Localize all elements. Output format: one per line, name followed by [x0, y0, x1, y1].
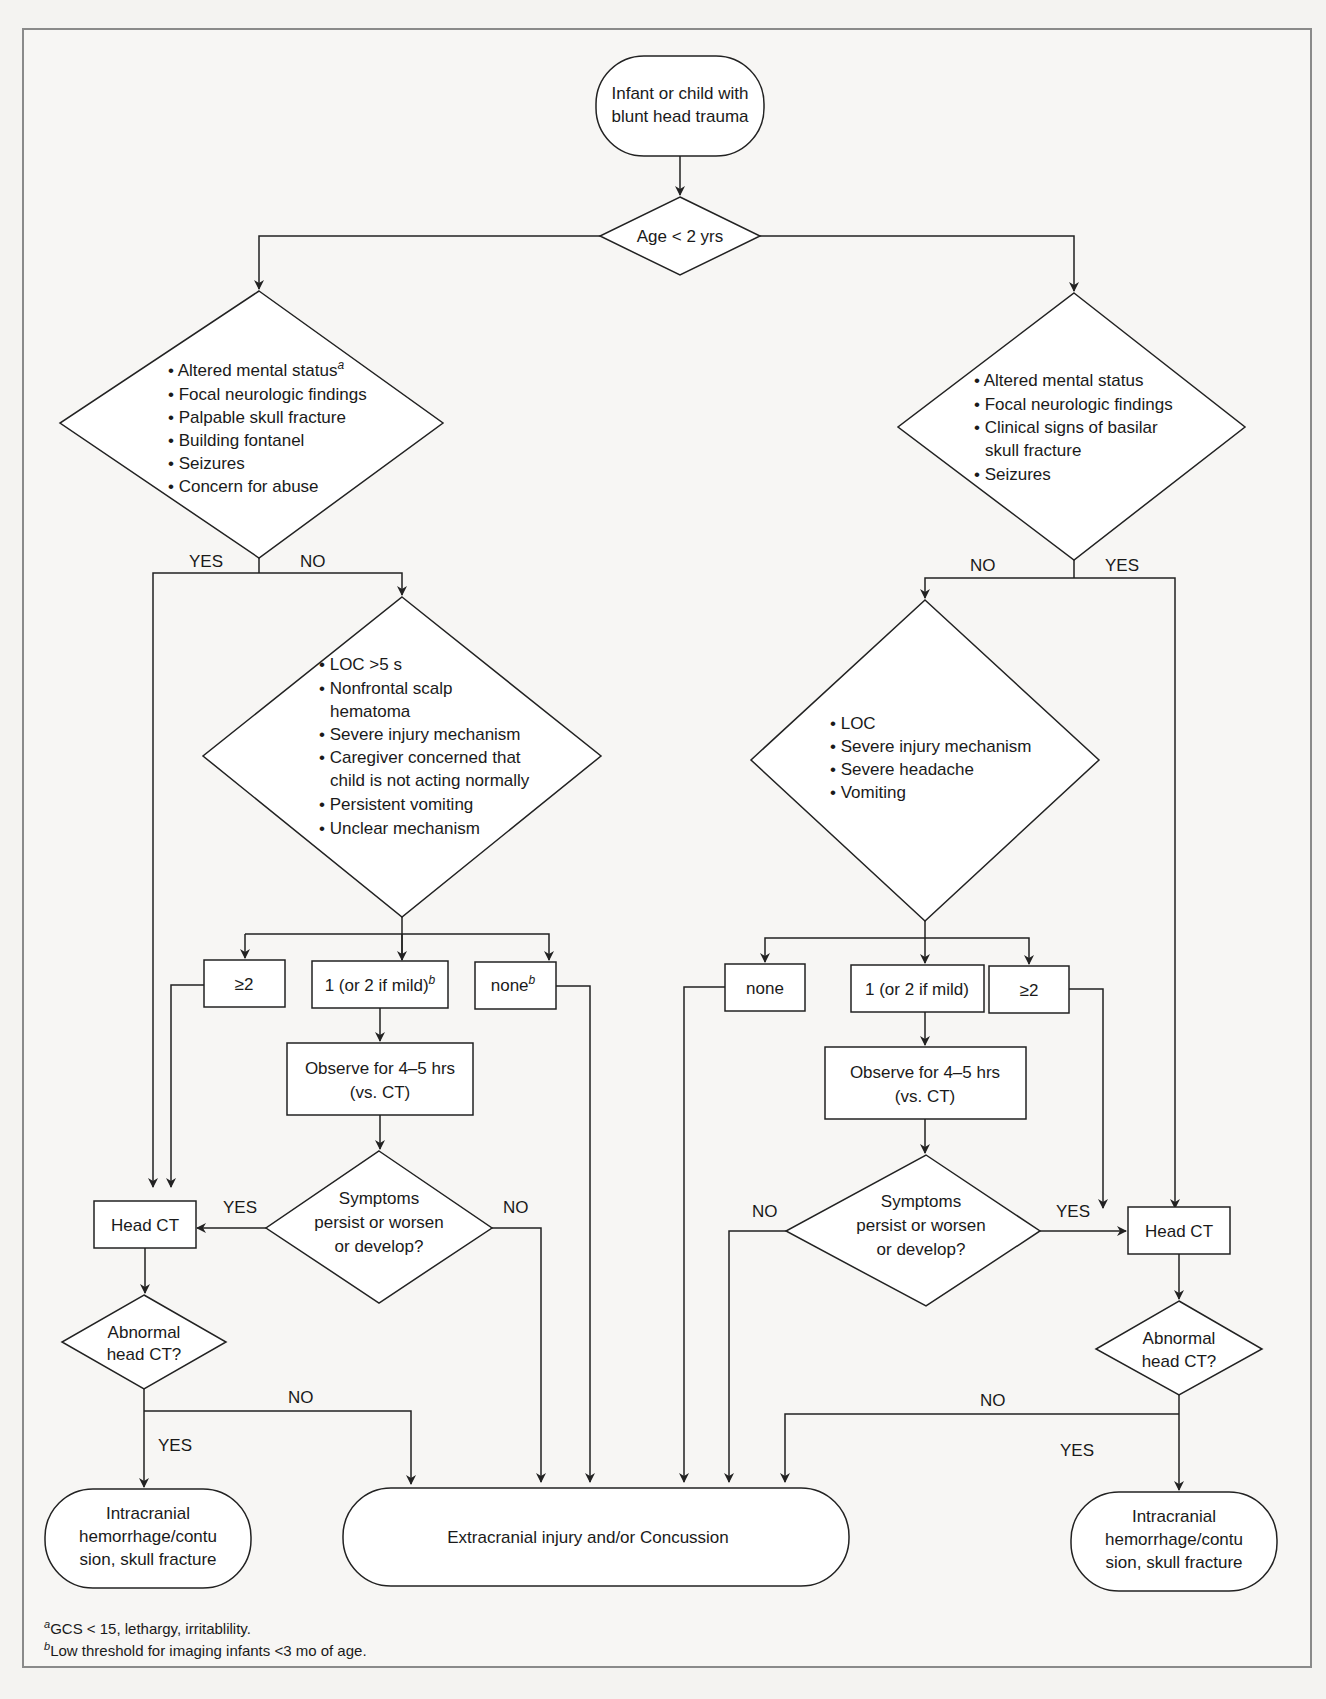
right-abnormal-line2: head CT? — [1142, 1352, 1217, 1371]
right-observe-box: Observe for 4–5 hrs (vs. CT) — [825, 1047, 1026, 1119]
left-secondary-7: • Unclear mechanism — [319, 819, 480, 838]
right-count-none-label: none — [746, 979, 784, 998]
left-symptoms-line2: persist or worsen — [314, 1213, 443, 1232]
start-line2: blunt head trauma — [611, 107, 749, 126]
left-head-ct-label: Head CT — [111, 1216, 179, 1235]
right-count-ge2-label: ≥2 — [1020, 981, 1039, 1000]
left-outcome-line3: sion, skull fracture — [80, 1550, 217, 1569]
right-abnormal-line1: Abnormal — [1143, 1329, 1216, 1348]
left-count-ge2: ≥2 — [204, 960, 285, 1007]
left-symptoms-line1: Symptoms — [339, 1189, 419, 1208]
left-abn-yes-label: YES — [158, 1436, 192, 1455]
left-abnormal-decision: Abnormal head CT? — [62, 1295, 226, 1389]
flowchart: Infant or child with blunt head trauma A… — [0, 0, 1326, 1699]
left-outcome-line2: hemorrhage/contu — [79, 1527, 217, 1546]
left-outcome-node: Intracranial hemorrhage/contu sion, skul… — [45, 1489, 251, 1588]
left-criteria-0: • Altered mental statusa — [168, 358, 344, 380]
right-criteria-3: skull fracture — [985, 441, 1081, 460]
right-sym-yes-label: YES — [1056, 1202, 1090, 1221]
right-sym-no-label: NO — [752, 1202, 778, 1221]
left-criteria-2: • Palpable skull fracture — [168, 408, 346, 427]
age-decision: Age < 2 yrs — [600, 197, 760, 275]
right-count-ge2: ≥2 — [989, 966, 1069, 1013]
right-count-1-label: 1 (or 2 if mild) — [865, 980, 969, 999]
right-count-1: 1 (or 2 if mild) — [851, 965, 984, 1012]
footnotes: aGCS < 15, lethargy, irritablility. bLow… — [44, 1618, 367, 1659]
left-yes-label: YES — [189, 552, 223, 571]
right-abn-no-label: NO — [980, 1391, 1006, 1410]
left-secondary-2: hematoma — [330, 702, 411, 721]
left-secondary-decision: • LOC >5 s • Nonfrontal scalp hematoma •… — [203, 597, 601, 917]
right-symptoms-decision: Symptoms persist or worsen or develop? — [786, 1155, 1040, 1306]
left-criteria-4: • Seizures — [168, 454, 245, 473]
left-observe-box: Observe for 4–5 hrs (vs. CT) — [287, 1043, 473, 1115]
left-observe-line2: (vs. CT) — [350, 1083, 410, 1102]
start-node: Infant or child with blunt head trauma — [596, 56, 764, 156]
left-criteria-3: • Building fontanel — [168, 431, 304, 450]
right-secondary-0: • LOC — [830, 714, 876, 733]
footnote-a: aGCS < 15, lethargy, irritablility. — [44, 1618, 251, 1637]
left-observe-line1: Observe for 4–5 hrs — [305, 1059, 455, 1078]
right-count-none: none — [725, 964, 805, 1011]
right-observe-line2: (vs. CT) — [895, 1087, 955, 1106]
right-criteria-4: • Seizures — [974, 465, 1051, 484]
left-symptoms-decision: Symptoms persist or worsen or develop? — [266, 1151, 492, 1303]
right-secondary-2: • Severe headache — [830, 760, 974, 779]
left-abn-no-label: NO — [288, 1388, 314, 1407]
left-secondary-6: • Persistent vomiting — [319, 795, 473, 814]
left-sym-yes-label: YES — [223, 1198, 257, 1217]
left-criteria-5: • Concern for abuse — [168, 477, 319, 496]
age-decision-label: Age < 2 yrs — [637, 227, 723, 246]
left-secondary-5: child is not acting normally — [330, 771, 530, 790]
right-secondary-decision: • LOC • Severe injury mechanism • Severe… — [751, 600, 1099, 921]
right-criteria-1: • Focal neurologic findings — [974, 395, 1173, 414]
footnote-b: bLow threshold for imaging infants <3 mo… — [44, 1640, 367, 1659]
right-head-ct-box: Head CT — [1128, 1207, 1230, 1254]
right-no-label: NO — [970, 556, 996, 575]
left-count-1-label: 1 (or 2 if mild)b — [325, 973, 436, 995]
right-symptoms-line2: persist or worsen — [856, 1216, 985, 1235]
right-criteria-2: • Clinical signs of basilar — [974, 418, 1158, 437]
right-head-ct-label: Head CT — [1145, 1222, 1213, 1241]
center-outcome-label: Extracranial injury and/or Concussion — [447, 1528, 729, 1547]
left-count-none: noneb — [475, 962, 556, 1009]
left-secondary-3: • Severe injury mechanism — [319, 725, 521, 744]
right-criteria-decision: • Altered mental status • Focal neurolog… — [898, 293, 1245, 560]
right-symptoms-line1: Symptoms — [881, 1192, 961, 1211]
left-no-label: NO — [300, 552, 326, 571]
right-outcome-node: Intracranial hemorrhage/contu sion, skul… — [1071, 1492, 1277, 1591]
right-observe-line1: Observe for 4–5 hrs — [850, 1063, 1000, 1082]
right-secondary-3: • Vomiting — [830, 783, 906, 802]
left-criteria-decision: • Altered mental statusa • Focal neurolo… — [60, 291, 443, 558]
right-secondary-1: • Severe injury mechanism — [830, 737, 1032, 756]
right-symptoms-line3: or develop? — [877, 1240, 966, 1259]
right-outcome-line1: Intracranial — [1132, 1507, 1216, 1526]
left-count-1: 1 (or 2 if mild)b — [312, 961, 448, 1008]
left-count-ge2-label: ≥2 — [235, 975, 254, 994]
left-secondary-1: • Nonfrontal scalp — [319, 679, 453, 698]
center-outcome-node: Extracranial injury and/or Concussion — [343, 1488, 849, 1586]
left-abnormal-line1: Abnormal — [108, 1323, 181, 1342]
left-criteria-1: • Focal neurologic findings — [168, 385, 367, 404]
right-outcome-line3: sion, skull fracture — [1106, 1553, 1243, 1572]
right-outcome-line2: hemorrhage/contu — [1105, 1530, 1243, 1549]
left-secondary-4: • Caregiver concerned that — [319, 748, 521, 767]
left-outcome-line1: Intracranial — [106, 1504, 190, 1523]
right-abnormal-decision: Abnormal head CT? — [1096, 1301, 1262, 1395]
left-abnormal-line2: head CT? — [107, 1345, 182, 1364]
right-abn-yes-label: YES — [1060, 1441, 1094, 1460]
left-head-ct-box: Head CT — [94, 1201, 196, 1248]
right-yes-label: YES — [1105, 556, 1139, 575]
left-symptoms-line3: or develop? — [335, 1237, 424, 1256]
left-sym-no-label: NO — [503, 1198, 529, 1217]
left-secondary-0: • LOC >5 s — [319, 655, 402, 674]
start-line1: Infant or child with — [611, 84, 748, 103]
right-criteria-0: • Altered mental status — [974, 371, 1143, 390]
